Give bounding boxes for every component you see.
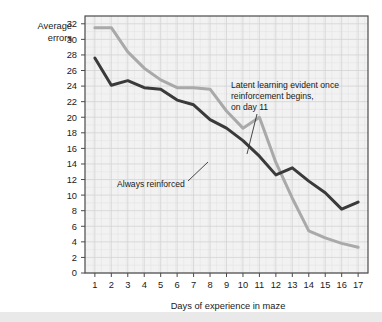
x-axis-ticks: 1234567891011121314151617 [92,273,363,290]
x-tick-label: 1 [92,280,97,290]
y-axis-ticks: 02468101214161820222426283032 [67,19,85,278]
x-tick-label: 12 [271,280,281,290]
x-tick-label: 2 [109,280,114,290]
y-tick-label: 28 [67,50,77,60]
x-axis-title: Days of experience in maze [171,301,286,311]
y-tick-label: 12 [67,175,77,185]
line-chart: 02468101214161820222426283032 1234567891… [0,0,382,322]
x-tick-label: 15 [320,280,330,290]
x-tick-label: 13 [287,280,297,290]
y-tick-label: 0 [72,268,77,278]
y-tick-label: 20 [67,113,77,123]
y-axis-title-line2: errors [48,33,73,43]
x-tick-label: 3 [125,280,130,290]
x-tick-label: 11 [255,280,265,290]
y-tick-label: 6 [72,222,77,232]
y-tick-label: 22 [67,97,77,107]
x-tick-label: 17 [353,280,363,290]
y-tick-label: 24 [67,81,77,91]
x-tick-label: 16 [337,280,347,290]
y-tick-label: 8 [72,206,77,216]
x-tick-label: 4 [142,280,147,290]
y-axis-title-line1: Average [38,21,72,31]
y-tick-label: 18 [67,128,77,138]
chart-figure: 02468101214161820222426283032 1234567891… [0,0,382,322]
x-tick-label: 7 [191,280,196,290]
y-tick-label: 2 [72,253,77,263]
x-tick-label: 5 [158,280,163,290]
x-tick-label: 6 [175,280,180,290]
latent-annotation-line1: Latent learning evident once [231,80,339,90]
y-tick-label: 26 [67,66,77,76]
y-tick-label: 14 [67,159,77,169]
grid-lines [85,16,368,273]
x-tick-label: 14 [304,280,314,290]
always-reinforced-label: Always reinforced [117,179,185,189]
latent-annotation-line3: on day 11 [231,102,268,112]
latent-annotation-line2: reinforcement begins, [231,91,314,101]
page-bottom-strip [0,312,382,322]
y-tick-label: 16 [67,144,77,154]
y-tick-label: 10 [67,191,77,201]
x-tick-label: 9 [224,280,229,290]
x-tick-label: 10 [238,280,248,290]
y-tick-label: 4 [72,237,77,247]
x-tick-label: 8 [207,280,212,290]
